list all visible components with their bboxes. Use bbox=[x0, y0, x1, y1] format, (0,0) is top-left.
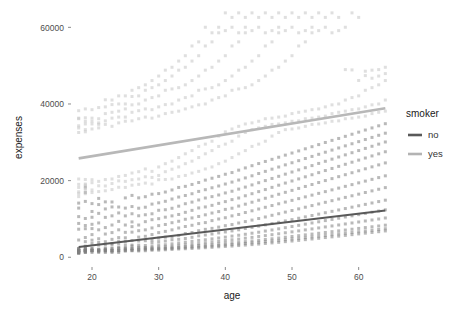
data-point bbox=[331, 158, 334, 161]
data-point bbox=[357, 230, 360, 233]
data-point bbox=[371, 154, 374, 157]
data-point bbox=[144, 235, 147, 238]
data-point bbox=[91, 239, 94, 242]
data-point bbox=[217, 226, 220, 229]
data-point bbox=[131, 178, 134, 181]
data-point bbox=[111, 224, 114, 227]
data-point bbox=[104, 216, 107, 219]
data-point bbox=[284, 231, 287, 234]
data-point bbox=[157, 209, 160, 212]
data-point bbox=[351, 117, 354, 120]
data-point bbox=[344, 99, 347, 102]
data-point bbox=[97, 221, 100, 224]
data-point bbox=[364, 74, 367, 77]
data-point bbox=[251, 164, 254, 167]
data-point bbox=[304, 157, 307, 160]
data-point bbox=[217, 83, 220, 86]
data-point bbox=[237, 11, 240, 14]
data-point bbox=[84, 128, 87, 131]
data-point bbox=[237, 205, 240, 208]
data-point bbox=[191, 160, 194, 163]
data-point bbox=[384, 110, 387, 113]
data-point bbox=[257, 172, 260, 175]
data-point bbox=[131, 172, 134, 175]
data-point bbox=[177, 226, 180, 229]
data-point bbox=[97, 106, 100, 109]
data-point bbox=[237, 197, 240, 200]
data-point bbox=[144, 116, 147, 119]
data-point bbox=[277, 227, 280, 230]
data-point bbox=[184, 194, 187, 197]
data-point bbox=[271, 158, 274, 161]
data-point bbox=[251, 174, 254, 177]
data-point bbox=[124, 236, 127, 239]
data-point bbox=[251, 201, 254, 204]
data-point bbox=[84, 116, 87, 119]
data-point bbox=[291, 179, 294, 182]
data-point bbox=[257, 235, 260, 238]
data-point bbox=[131, 111, 134, 114]
data-point bbox=[177, 175, 180, 178]
data-point bbox=[244, 26, 247, 29]
data-point bbox=[211, 227, 214, 230]
data-point bbox=[177, 186, 180, 189]
data-point bbox=[157, 115, 160, 118]
data-point bbox=[204, 241, 207, 244]
data-point bbox=[84, 120, 87, 123]
data-point bbox=[351, 11, 354, 14]
data-point bbox=[371, 165, 374, 168]
legend-label-no[interactable]: no bbox=[428, 129, 439, 140]
data-point bbox=[264, 31, 267, 34]
data-point bbox=[197, 242, 200, 245]
data-point bbox=[377, 152, 380, 155]
data-point bbox=[244, 186, 247, 189]
data-point bbox=[171, 188, 174, 191]
data-point bbox=[124, 186, 127, 189]
data-point bbox=[291, 26, 294, 29]
data-point bbox=[244, 166, 247, 169]
data-point bbox=[304, 175, 307, 178]
data-point bbox=[91, 210, 94, 213]
data-point bbox=[144, 175, 147, 178]
data-point bbox=[104, 178, 107, 181]
data-point bbox=[371, 136, 374, 139]
data-point bbox=[97, 212, 100, 215]
data-point bbox=[184, 211, 187, 214]
data-point bbox=[311, 183, 314, 186]
data-point bbox=[284, 60, 287, 63]
data-point bbox=[77, 202, 80, 205]
data-point bbox=[251, 236, 254, 239]
data-point bbox=[91, 127, 94, 130]
data-point bbox=[271, 186, 274, 189]
x-tick-label: 40 bbox=[221, 272, 231, 282]
data-point bbox=[364, 219, 367, 222]
data-point bbox=[351, 96, 354, 99]
data-point bbox=[337, 165, 340, 168]
data-point bbox=[324, 234, 327, 237]
y-tick-label: 0 bbox=[59, 252, 64, 262]
data-point bbox=[77, 215, 80, 218]
data-point bbox=[244, 86, 247, 89]
data-point bbox=[97, 197, 100, 200]
data-point bbox=[151, 86, 154, 89]
data-point bbox=[304, 215, 307, 218]
data-point bbox=[91, 181, 94, 184]
data-point bbox=[231, 26, 234, 29]
data-point bbox=[271, 214, 274, 217]
data-point bbox=[364, 115, 367, 118]
legend-label-yes[interactable]: yes bbox=[428, 148, 443, 159]
data-point bbox=[171, 214, 174, 217]
data-point bbox=[271, 29, 274, 32]
data-point bbox=[77, 178, 80, 181]
data-point bbox=[111, 99, 114, 102]
data-point bbox=[117, 102, 120, 105]
data-point bbox=[317, 235, 320, 238]
data-point bbox=[97, 126, 100, 129]
data-point bbox=[171, 102, 174, 105]
data-point bbox=[251, 11, 254, 14]
data-point bbox=[171, 198, 174, 201]
data-point bbox=[171, 66, 174, 69]
data-point bbox=[224, 191, 227, 194]
data-point bbox=[171, 111, 174, 114]
data-point bbox=[164, 191, 167, 194]
